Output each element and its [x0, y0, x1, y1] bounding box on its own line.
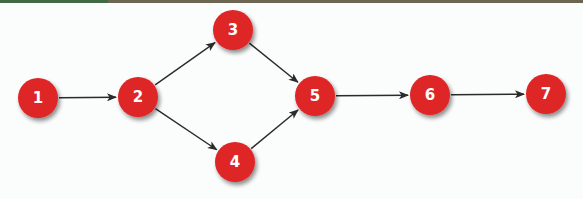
network-diagram: 1234567	[0, 0, 583, 199]
node-label: 7	[541, 85, 551, 103]
edge-2-to-3	[155, 43, 215, 85]
nodes-layer: 1234567	[18, 10, 566, 182]
node-label: 6	[425, 86, 435, 104]
node-4: 4	[215, 142, 255, 182]
node-3: 3	[213, 10, 253, 50]
node-label: 3	[228, 21, 238, 39]
node-6: 6	[410, 75, 450, 115]
node-2: 2	[118, 77, 158, 117]
edge-4-to-5	[251, 110, 298, 149]
node-label: 1	[33, 89, 43, 107]
node-7: 7	[526, 74, 566, 114]
edge-5-to-6	[336, 95, 408, 96]
node-label: 5	[310, 87, 320, 105]
node-5: 5	[295, 76, 335, 116]
edge-6-to-7	[451, 94, 524, 95]
edge-3-to-5	[249, 43, 298, 82]
node-1: 1	[18, 78, 58, 118]
node-label: 4	[230, 153, 240, 171]
edge-2-to-4	[155, 109, 216, 150]
node-label: 2	[133, 88, 143, 106]
edge-1-to-2	[59, 97, 116, 98]
